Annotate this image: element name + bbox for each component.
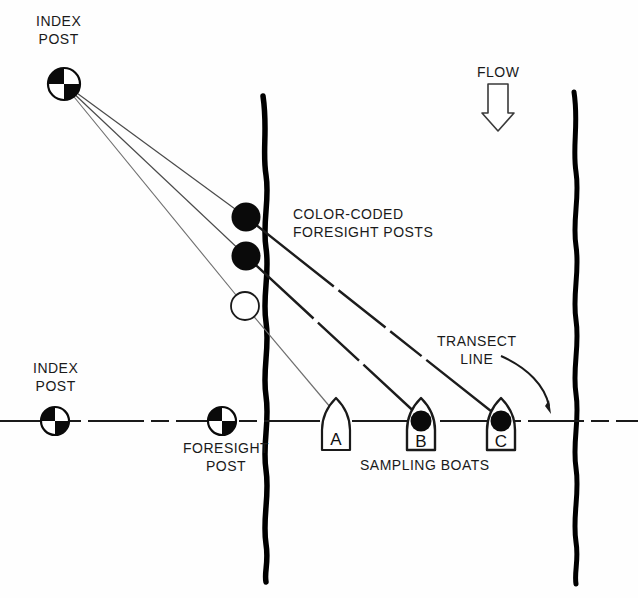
sight-line-a-far bbox=[245, 306, 336, 414]
label-index-post-left: INDEX POST bbox=[33, 360, 78, 395]
river-banks bbox=[263, 92, 577, 584]
boat-b-marker-dot bbox=[411, 411, 432, 432]
index-post-top-marker bbox=[48, 68, 80, 100]
sight-line-b-near bbox=[70, 90, 246, 256]
sight-line-c-far bbox=[246, 217, 501, 419]
transect-leader-arrowhead bbox=[545, 400, 551, 414]
transect-diagram: A B C INDEX POST INDEX POST FORESIGHT PO… bbox=[0, 0, 638, 598]
boat-a-label: A bbox=[330, 430, 342, 449]
sight-line-c-near bbox=[70, 88, 246, 217]
foresight-post-transect-marker bbox=[208, 407, 236, 435]
label-transect-line: TRANSECT LINE bbox=[437, 333, 516, 368]
boat-b-label: B bbox=[415, 432, 426, 451]
boat-c-label: C bbox=[495, 432, 507, 451]
sampling-boat-a[interactable]: A bbox=[322, 398, 350, 450]
label-index-post-top: INDEX POST bbox=[36, 13, 81, 48]
foresight-post-open-3 bbox=[231, 292, 259, 320]
index-post-left-marker bbox=[41, 407, 69, 435]
label-color-coded-foresight-posts: COLOR-CODED FORESIGHT POSTS bbox=[293, 206, 433, 241]
foresight-posts bbox=[231, 203, 261, 321]
sampling-boat-c[interactable]: C bbox=[487, 398, 515, 451]
left-bank-line bbox=[263, 96, 267, 582]
flow-arrow-icon bbox=[482, 84, 514, 131]
sampling-boat-b[interactable]: B bbox=[407, 398, 435, 451]
foresight-post-filled-2 bbox=[232, 242, 261, 271]
boat-c-marker-dot bbox=[491, 411, 512, 432]
diagram-canvas: A B C bbox=[0, 0, 638, 598]
right-bank-line bbox=[574, 92, 577, 584]
sight-lines bbox=[70, 88, 501, 419]
label-sampling-boats: SAMPLING BOATS bbox=[360, 457, 490, 475]
label-flow: FLOW bbox=[477, 64, 519, 82]
sight-line-a-near bbox=[70, 92, 245, 306]
sight-line-b-far bbox=[246, 256, 421, 418]
label-foresight-post: FORESIGHT POST bbox=[183, 440, 269, 475]
foresight-post-filled-1 bbox=[232, 203, 261, 232]
